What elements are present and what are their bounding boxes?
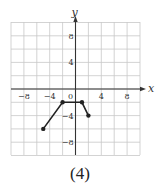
y-axis-label: y: [70, 6, 78, 19]
svg-text:0: 0: [68, 92, 73, 101]
svg-text:−4: −4: [62, 112, 74, 121]
x-axis-label: x: [148, 82, 155, 95]
svg-text:8: 8: [125, 92, 130, 101]
svg-text:4: 4: [68, 58, 73, 67]
svg-text:8: 8: [68, 32, 73, 41]
axes: [11, 16, 146, 155]
coordinate-plane: −8−404884−4−8 x y: [0, 0, 160, 188]
svg-text:4: 4: [99, 92, 104, 101]
figure-caption: (4): [0, 164, 160, 184]
svg-text:−8: −8: [18, 92, 30, 101]
svg-text:−4: −4: [44, 92, 56, 101]
svg-text:−8: −8: [62, 138, 74, 147]
